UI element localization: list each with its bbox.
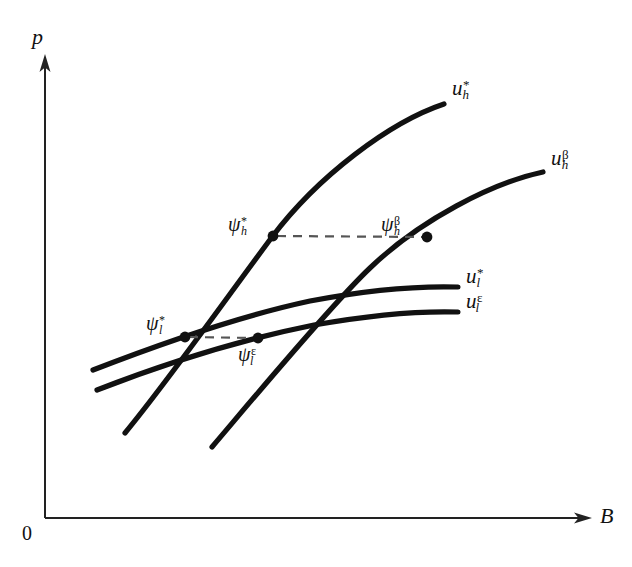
point-label-sub: l — [250, 354, 253, 368]
dashed-high — [277, 236, 423, 237]
curve-u-beta-h — [212, 172, 543, 447]
point-psi-eps-l — [253, 333, 264, 344]
curve-label-u-star-l: u*l — [466, 266, 480, 287]
curve-label-base: u — [452, 76, 463, 100]
curve-label-sub: h — [463, 87, 470, 102]
curve-label-sub: l — [475, 300, 479, 315]
curve-label-sub: h — [562, 157, 569, 172]
x-axis-label: B — [600, 503, 613, 529]
indifference-curve-figure: p B 0 u*h uβh u*l uεl ψ*h ψβh ψ*l ψεl — [0, 0, 632, 567]
curve-u-star-h — [125, 104, 444, 433]
origin-label: 0 — [22, 522, 32, 545]
point-label-sub: h — [394, 224, 400, 238]
point-label-base: ψ — [238, 343, 250, 365]
curve-label-sub: l — [477, 275, 481, 290]
point-label-psi-eps-l: ψεl — [238, 344, 253, 364]
point-psi-star-l — [180, 332, 191, 343]
point-label-sub: h — [241, 224, 247, 238]
curve-label-u-star-h: u*h — [452, 78, 469, 99]
point-label-psi-beta-h: ψβh — [381, 214, 400, 234]
point-label-psi-star-h: ψ*h — [228, 214, 247, 234]
curve-label-u-eps-l: uεl — [466, 291, 479, 312]
axes-group — [40, 54, 593, 524]
point-psi-star-h — [268, 231, 279, 242]
point-label-sub: l — [159, 323, 162, 337]
curve-label-base: u — [466, 264, 477, 288]
point-psi-beta-h — [422, 232, 433, 243]
y-axis-label: p — [32, 24, 43, 50]
point-label-base: ψ — [146, 312, 158, 334]
curve-label-u-beta-h: uβh — [551, 148, 568, 169]
plot-canvas — [0, 0, 632, 567]
point-label-psi-star-l: ψ*l — [146, 313, 162, 333]
curve-label-base: u — [551, 146, 562, 170]
point-label-base: ψ — [381, 213, 393, 235]
point-label-base: ψ — [228, 213, 240, 235]
